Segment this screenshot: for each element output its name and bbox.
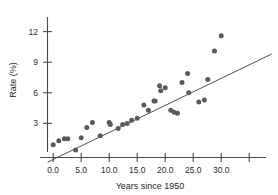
- data-point: [90, 120, 95, 125]
- data-point: [180, 80, 185, 85]
- data-point: [158, 88, 163, 93]
- x-tick-label-5: 5.0: [75, 165, 87, 175]
- data-point: [153, 98, 158, 103]
- data-point: [120, 122, 125, 127]
- y-axis-title: Rate (%): [8, 62, 18, 98]
- x-tick-label-10: 10.0: [101, 165, 118, 175]
- y-tick-label-6: 6: [33, 88, 38, 98]
- data-point: [84, 125, 89, 130]
- data-point: [135, 116, 140, 121]
- data-point: [129, 118, 134, 123]
- y-tick-label-12: 12: [29, 27, 39, 37]
- x-axis-title: Years since 1950: [116, 181, 185, 191]
- data-point: [79, 135, 84, 140]
- data-point: [163, 85, 168, 90]
- x-tick-label-25: 25.0: [185, 165, 202, 175]
- data-point: [125, 121, 130, 126]
- data-point: [73, 147, 78, 152]
- data-point: [186, 90, 191, 95]
- x-tick-label-0: 0.0: [47, 165, 59, 175]
- data-point: [116, 126, 121, 131]
- data-point: [98, 133, 103, 138]
- x-tick-label-20: 20.0: [157, 165, 174, 175]
- y-tick-label-9: 9: [33, 57, 38, 67]
- data-point: [108, 122, 113, 127]
- data-point: [212, 48, 217, 53]
- data-point: [196, 99, 201, 104]
- data-point: [219, 33, 224, 38]
- data-point: [175, 111, 180, 116]
- y-tick-label-3: 3: [33, 118, 38, 128]
- data-point: [56, 138, 61, 143]
- data-point: [157, 83, 162, 88]
- data-point: [51, 142, 56, 147]
- scatter-chart: 12 9 6 3 0.0 5.0 10.0 15.0 20.0 25.0 30.…: [0, 0, 278, 195]
- y-axis-tick-labels: 12 9 6 3: [29, 27, 39, 129]
- data-point: [65, 136, 70, 141]
- data-point: [141, 103, 146, 108]
- data-point: [202, 97, 207, 102]
- x-axis-tick-labels: 0.0 5.0 10.0 15.0 20.0 25.0 30.0: [47, 165, 229, 175]
- data-point: [185, 71, 190, 76]
- x-tick-label-15: 15.0: [129, 165, 146, 175]
- regression-line: [48, 54, 272, 162]
- x-tick-label-30: 30.0: [213, 165, 230, 175]
- chart-canvas: 12 9 6 3 0.0 5.0 10.0 15.0 20.0 25.0 30.…: [0, 0, 278, 195]
- data-point: [146, 108, 151, 113]
- scatter-points-group: [51, 33, 224, 152]
- data-point: [205, 77, 210, 82]
